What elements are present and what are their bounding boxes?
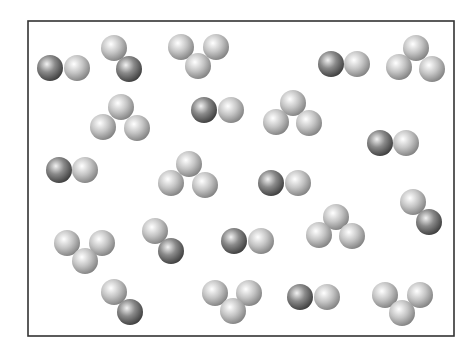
light-atom-icon xyxy=(344,51,370,77)
light-atom-icon xyxy=(192,172,218,198)
light-atom-icon xyxy=(185,53,211,79)
particle-box-diagram xyxy=(0,0,474,356)
dark-atom-icon xyxy=(416,209,442,235)
light-atom-icon xyxy=(218,97,244,123)
light-atom-icon xyxy=(306,222,332,248)
dark-atom-icon xyxy=(117,299,143,325)
light-atom-icon xyxy=(158,170,184,196)
dark-atom-icon xyxy=(258,170,284,196)
light-atom-icon xyxy=(64,55,90,81)
light-atom-icon xyxy=(296,110,322,136)
light-atom-icon xyxy=(176,151,202,177)
dark-atom-icon xyxy=(116,56,142,82)
light-atom-icon xyxy=(220,298,246,324)
light-atom-icon xyxy=(72,157,98,183)
light-atom-icon xyxy=(108,94,134,120)
dark-atom-icon xyxy=(367,130,393,156)
dark-atom-icon xyxy=(46,157,72,183)
dark-atom-icon xyxy=(37,55,63,81)
light-atom-icon xyxy=(248,228,274,254)
light-atom-icon xyxy=(339,223,365,249)
light-atom-icon xyxy=(393,130,419,156)
light-atom-icon xyxy=(72,248,98,274)
dark-atom-icon xyxy=(158,238,184,264)
dark-atom-icon xyxy=(287,284,313,310)
light-atom-icon xyxy=(203,34,229,60)
light-atom-icon xyxy=(389,300,415,326)
light-atom-icon xyxy=(285,170,311,196)
light-atom-icon xyxy=(124,115,150,141)
light-atom-icon xyxy=(419,56,445,82)
dark-atom-icon xyxy=(221,228,247,254)
diagram-canvas xyxy=(0,0,474,356)
light-atom-icon xyxy=(90,114,116,140)
light-atom-icon xyxy=(386,54,412,80)
light-atom-icon xyxy=(101,35,127,61)
dark-atom-icon xyxy=(191,97,217,123)
dark-atom-icon xyxy=(318,51,344,77)
light-atom-icon xyxy=(314,284,340,310)
light-atom-icon xyxy=(263,109,289,135)
